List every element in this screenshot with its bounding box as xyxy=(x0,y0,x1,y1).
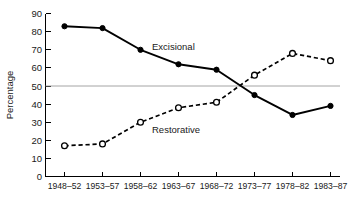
data-point xyxy=(100,25,105,30)
data-point xyxy=(328,103,333,108)
y-tick-label: 90 xyxy=(31,8,42,19)
y-axis-title: Percentage xyxy=(4,71,15,120)
x-tick-label: 1948–52 xyxy=(48,181,82,191)
data-point xyxy=(290,51,296,57)
data-point xyxy=(252,72,258,78)
data-point xyxy=(214,67,219,72)
chart-container: 0 10 20 30 40 50 60 70 80 90 Percentage … xyxy=(0,0,348,202)
y-tick-label: 30 xyxy=(31,117,42,128)
data-point xyxy=(62,143,68,149)
data-point xyxy=(176,105,182,111)
excisional-series-label: Excisional xyxy=(152,41,195,52)
y-tick-label: 40 xyxy=(31,99,42,110)
data-point xyxy=(62,24,67,29)
y-tick-label: 50 xyxy=(31,81,42,92)
line-chart: 0 10 20 30 40 50 60 70 80 90 Percentage … xyxy=(0,0,348,202)
restorative-series-label: Restorative xyxy=(152,124,200,135)
x-tick-label: 1973–77 xyxy=(238,181,272,191)
y-tick-label: 80 xyxy=(31,26,42,37)
y-tick-label: 0 xyxy=(37,171,42,182)
y-tick-label: 70 xyxy=(31,44,42,55)
data-point xyxy=(138,119,144,125)
data-point xyxy=(214,99,220,105)
y-tick-label: 20 xyxy=(31,135,42,146)
x-tick-label: 1968–72 xyxy=(200,181,234,191)
data-point xyxy=(100,141,106,147)
x-tick-label: 1983–87 xyxy=(314,181,348,191)
data-point xyxy=(290,112,295,117)
chart-background xyxy=(0,0,348,202)
x-tick-label: 1978–82 xyxy=(276,181,310,191)
x-tick-label: 1958–62 xyxy=(124,181,158,191)
y-tick-label: 60 xyxy=(31,62,42,73)
data-point xyxy=(328,58,334,64)
y-tick-label: 10 xyxy=(31,153,42,164)
data-point xyxy=(138,47,143,52)
data-point xyxy=(252,92,257,97)
x-tick-label: 1953–57 xyxy=(86,181,120,191)
data-point xyxy=(176,62,181,67)
x-tick-label: 1963–67 xyxy=(162,181,196,191)
